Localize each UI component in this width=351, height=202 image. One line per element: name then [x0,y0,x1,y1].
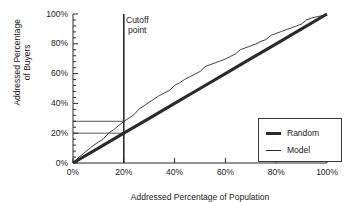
legend-swatch-random-icon [266,132,281,135]
legend-item-model: Model [266,142,310,158]
y-tick-label: 100% [0,10,68,19]
legend-label-random: Random [287,128,319,138]
y-axis-title-line1: Addressed Percentage [12,0,22,132]
legend-swatch-model-icon [266,150,281,151]
y-axis-title-line2: of Buyers [22,0,32,132]
x-axis-title: Addressed Percentage of Population [73,186,327,202]
y-tick-label: 40% [0,99,68,108]
y-tick-label: 0% [0,159,68,168]
x-tick-label: 0% [48,168,98,177]
y-tick-label: 60% [0,69,68,78]
legend-item-random: Random [266,125,319,141]
legend-label-model: Model [287,145,310,155]
x-tick-label: 60% [200,168,250,177]
x-tick-label: 40% [150,168,200,177]
cutoff-point-label-line1: Cutoff [126,15,149,25]
cutoff-point-label-line2: point [126,25,149,35]
x-tick-label: 80% [251,168,301,177]
y-tick-label: 80% [0,39,68,48]
y-tick-label: 20% [0,129,68,138]
x-axis-title-text: Addressed Percentage of Population [131,192,269,202]
y-axis-major-ticks [73,14,78,163]
cumulative-gains-chart: 0%20%40%60%80%100% 0%20%40%60%80%100% Ad… [0,0,351,202]
x-tick-label: 100% [302,168,351,177]
y-axis-title: Addressed Percentage of Buyers [12,0,33,132]
chart-legend: Random Model [258,118,342,162]
x-tick-label: 20% [99,168,149,177]
cutoff-point-label: Cutoff point [126,15,149,35]
